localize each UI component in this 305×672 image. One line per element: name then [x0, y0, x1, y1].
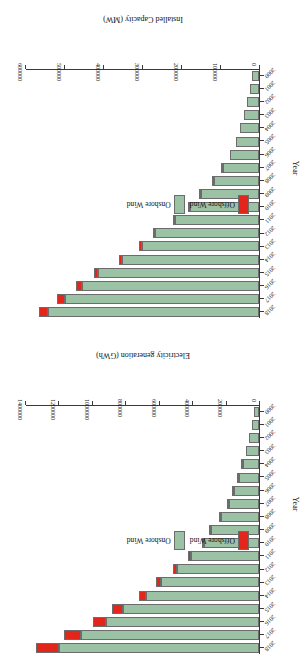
year-tick-label: 2018: [264, 640, 277, 653]
year-tick-label: 2010: [264, 534, 277, 547]
bar-segment-onshore: [254, 407, 259, 417]
value-tick-mark: [125, 401, 126, 405]
value-axis-generation: 0200000400000600000800000100000012000001…: [26, 365, 260, 405]
year-tick-slot: 2016: [260, 617, 269, 627]
year-tick-slot: 2005: [260, 472, 269, 482]
bar-segment-onshore: [98, 268, 259, 278]
year-tick-slot: 2018: [260, 307, 269, 317]
value-tick-mark: [192, 401, 193, 405]
year-tick-label: 2011: [264, 548, 277, 561]
chart-panel-installed-capacity: 2018201720162015201420132012201120102009…: [0, 0, 305, 336]
year-tick-slot: 2017: [260, 294, 269, 304]
plot-wrapper-generation: 2018201720162015201420132012201120102009…: [0, 336, 305, 672]
year-axis-generation: 2018201720162015201420132012201120102009…: [260, 405, 269, 654]
year-tick-label: 2012: [264, 561, 277, 574]
legend-label-offshore: Offshore Wind: [190, 536, 235, 545]
bar-row: [26, 228, 259, 238]
year-tick-label: 2009: [264, 521, 277, 534]
bar-segment-offshore: [227, 499, 229, 509]
year-axis-capacity: 2018201720162015201420132012201120102009…: [260, 69, 269, 318]
bar-segment-offshore: [112, 604, 123, 614]
year-tick-label: 2005: [264, 469, 277, 482]
axis-title-electricity-generation: Electricity generation (GWh): [26, 351, 260, 360]
bar-segment-onshore: [123, 255, 260, 265]
bar-segment-offshore: [237, 473, 239, 483]
year-tick-slot: 2001: [260, 83, 269, 93]
year-tick-slot: 2007: [260, 498, 269, 508]
year-tick-slot: 2009: [260, 525, 269, 535]
value-tick-label: 300000: [134, 63, 141, 81]
bar-segment-onshore: [230, 150, 259, 160]
bar-row: [26, 604, 259, 614]
bar-segment-onshore: [243, 459, 259, 469]
year-tick-label: 2003: [264, 442, 277, 455]
year-tick-label: 2006: [264, 146, 277, 159]
bar-segment-onshore: [223, 163, 259, 173]
bar-segment-onshore: [146, 591, 259, 601]
year-tick-label: 2002: [264, 93, 277, 106]
year-tick-label: 2001: [264, 80, 277, 93]
year-tick-label: 2001: [264, 416, 277, 429]
year-tick-label: 2017: [264, 291, 277, 304]
bar-segment-onshore: [247, 97, 259, 107]
bar-segment-onshore: [221, 512, 259, 522]
value-tick-mark: [181, 65, 182, 69]
bar-row: [26, 150, 259, 160]
bar-segment-offshore: [39, 307, 48, 317]
bar-row: [26, 268, 259, 278]
bar-segment-onshore: [106, 617, 259, 627]
value-tick-label: 200000: [217, 399, 224, 417]
bar-segment-onshore: [240, 123, 259, 133]
year-tick-slot: 2011: [260, 551, 269, 561]
legend-swatch-offshore-icon: [238, 531, 249, 550]
bar-segment-onshore: [175, 215, 259, 225]
bar-row: [26, 446, 259, 456]
value-tick-mark: [159, 401, 160, 405]
bar-segment-offshore: [219, 512, 221, 522]
year-tick-label: 2014: [264, 587, 277, 600]
bar-row: [26, 294, 259, 304]
year-tick-label: 2002: [264, 429, 277, 442]
value-tick-mark: [25, 65, 26, 69]
year-tick-slot: 2000: [260, 406, 269, 416]
year-tick-label: 2009: [264, 185, 277, 198]
year-tick-slot: 2012: [260, 228, 269, 238]
bar-segment-offshore: [156, 577, 162, 587]
value-tick-mark: [226, 401, 227, 405]
bar-segment-onshore: [239, 473, 259, 483]
year-tick-slot: 2002: [260, 97, 269, 107]
year-tick-label: 2016: [264, 277, 277, 290]
year-tick-label: 2004: [264, 120, 277, 133]
bar-segment-offshore: [64, 630, 82, 640]
year-tick-label: 2005: [264, 133, 277, 146]
bar-segment-offshore: [173, 215, 175, 225]
bar-row: [26, 630, 259, 640]
year-tick-slot: 2004: [260, 459, 269, 469]
value-tick-label: 400000: [184, 399, 191, 417]
year-tick-slot: 2002: [260, 433, 269, 443]
bar-segment-onshore: [48, 307, 259, 317]
bar-segment-onshore: [177, 564, 259, 574]
year-tick-slot: 2011: [260, 215, 269, 225]
year-tick-slot: 2013: [260, 577, 269, 587]
year-tick-label: 2003: [264, 106, 277, 119]
bar-segment-onshore: [123, 604, 259, 614]
year-tick-label: 2017: [264, 627, 277, 640]
value-tick-mark: [103, 65, 104, 69]
bar-row: [26, 407, 259, 417]
bar-segment-offshore: [221, 163, 223, 173]
bar-segment-offshore: [139, 241, 142, 251]
value-tick-mark: [259, 401, 260, 405]
year-tick-label: 2015: [264, 264, 277, 277]
bar-segment-offshore: [232, 486, 234, 496]
year-tick-slot: 2001: [260, 419, 269, 429]
bar-row: [26, 591, 259, 601]
legend-swatch-onshore-icon: [174, 195, 185, 214]
year-tick-label: 2007: [264, 159, 277, 172]
bar-row: [26, 473, 259, 483]
year-tick-label: 2000: [264, 67, 277, 80]
bar-row: [26, 163, 259, 173]
year-tick-label: 2011: [264, 212, 277, 225]
bar-segment-onshore: [214, 176, 259, 186]
legend-swatch-onshore-icon: [174, 531, 185, 550]
